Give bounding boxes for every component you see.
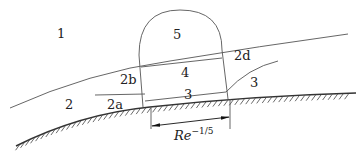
dimension-base: Re [173,128,192,143]
region-label-2b: 2b [120,72,137,87]
dimension-arrow [152,117,229,126]
region-label-2a: 2a [107,97,123,112]
region-label-2c: 2d [234,48,251,63]
region-label-4: 4 [181,65,189,80]
region-label-3: 3 [184,87,192,102]
region-label-2d: 3 [250,75,258,90]
triple-deck-diagram: 1 5 2d 4 2b 3 3 2 2a Re−1/5 [0,0,364,155]
region-label-5: 5 [173,27,181,42]
dimension-label: Re−1/5 [173,126,214,143]
dimension-exponent: −1/5 [191,126,213,136]
region-label-1: 1 [57,26,65,41]
region-label-2: 2 [65,97,73,112]
divider-2a-2b [95,94,145,95]
